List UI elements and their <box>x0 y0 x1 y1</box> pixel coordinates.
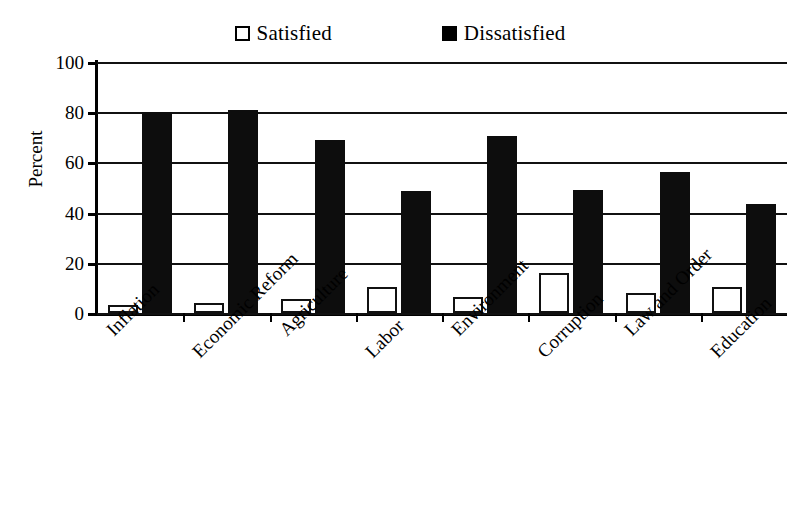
x-axis-category-label: Inflation <box>102 279 164 341</box>
x-axis-category-label: Law and Order <box>620 244 717 341</box>
plot-area-wrapper: Percent 020406080100 InflationEconomic R… <box>0 0 800 505</box>
x-axis-category-label: Labor <box>361 315 409 363</box>
x-axis-category-label: Environment <box>447 255 533 341</box>
x-axis-category-label: Corruption <box>533 288 608 363</box>
x-axis-category-labels: InflationEconomic ReformAgricultureLabor… <box>0 0 800 505</box>
x-axis-category-label: Education <box>706 293 776 363</box>
x-axis-category-label: Economic Reform <box>188 248 302 362</box>
bar-chart: Satisfied Dissatisfied Percent 020406080… <box>0 0 800 505</box>
